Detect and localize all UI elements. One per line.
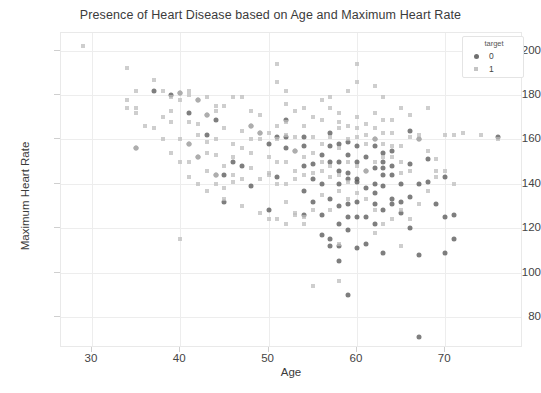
data-point-target-0 xyxy=(346,201,351,206)
data-point-target-1 xyxy=(434,157,438,161)
data-point-target-1 xyxy=(258,131,262,135)
data-point-target-0 xyxy=(346,215,351,220)
data-point-target-0 xyxy=(328,237,333,242)
gridline-horizontal xyxy=(61,273,521,274)
data-point-target-0 xyxy=(452,237,457,242)
data-point-target-0 xyxy=(337,221,342,226)
data-point-target-0 xyxy=(319,153,324,158)
data-point-target-0 xyxy=(434,201,439,206)
data-point-target-1 xyxy=(302,124,306,128)
data-point-target-1 xyxy=(355,126,359,130)
data-point-target-1 xyxy=(381,142,385,146)
data-point-target-1 xyxy=(364,122,368,126)
data-point-target-1 xyxy=(302,173,306,177)
data-point-target-0 xyxy=(363,155,368,160)
data-point-target-1 xyxy=(479,133,483,137)
data-point-target-0 xyxy=(284,146,289,151)
data-point-target-1 xyxy=(187,175,191,179)
data-point-target-1 xyxy=(355,135,359,139)
legend[interactable]: target 01 xyxy=(462,36,524,78)
data-point-target-1 xyxy=(249,151,253,155)
data-point-target-1 xyxy=(381,222,385,226)
data-point-target-1 xyxy=(222,186,226,190)
data-point-target-1 xyxy=(196,182,200,186)
data-point-target-1 xyxy=(293,149,297,153)
data-point-target-0 xyxy=(346,228,351,233)
x-tick-label: 50 xyxy=(248,352,288,364)
data-point-target-0 xyxy=(310,199,315,204)
data-point-target-1 xyxy=(311,151,315,155)
data-point-target-1 xyxy=(337,189,341,193)
data-point-target-1 xyxy=(373,231,377,235)
data-point-target-1 xyxy=(417,133,421,137)
data-point-target-1 xyxy=(275,217,279,221)
data-point-target-1 xyxy=(399,244,403,248)
data-point-target-0 xyxy=(425,157,430,162)
data-point-target-0 xyxy=(390,172,395,177)
data-point-target-1 xyxy=(161,115,165,119)
data-point-target-0 xyxy=(187,110,192,115)
data-point-target-0 xyxy=(346,170,351,175)
data-point-target-1 xyxy=(320,98,324,102)
data-point-target-1 xyxy=(293,177,297,181)
gridline-vertical xyxy=(92,33,93,346)
data-point-target-1 xyxy=(346,160,350,164)
data-point-target-1 xyxy=(408,169,412,173)
data-point-target-0 xyxy=(390,148,395,153)
data-point-target-1 xyxy=(373,137,377,141)
data-point-target-0 xyxy=(443,250,448,255)
data-point-target-0 xyxy=(328,144,333,149)
data-point-target-1 xyxy=(284,200,288,204)
data-point-target-1 xyxy=(328,175,332,179)
data-point-target-1 xyxy=(311,171,315,175)
data-point-target-1 xyxy=(178,137,182,141)
data-point-target-1 xyxy=(240,146,244,150)
data-point-target-1 xyxy=(311,115,315,119)
gridline-vertical xyxy=(269,33,270,346)
data-point-target-0 xyxy=(452,212,457,217)
data-point-target-1 xyxy=(390,217,394,221)
data-point-target-1 xyxy=(293,109,297,113)
data-point-target-0 xyxy=(213,117,218,122)
legend-item-1[interactable]: 1 xyxy=(463,63,525,76)
data-point-target-1 xyxy=(390,118,394,122)
data-point-target-1 xyxy=(408,217,412,221)
data-point-target-1 xyxy=(373,160,377,164)
gridline-horizontal xyxy=(61,95,521,96)
data-point-target-1 xyxy=(214,104,218,108)
data-point-target-1 xyxy=(320,169,324,173)
data-point-target-1 xyxy=(293,169,297,173)
legend-title: target xyxy=(463,39,525,48)
data-point-target-1 xyxy=(408,135,412,139)
data-point-target-1 xyxy=(337,279,341,283)
data-point-target-1 xyxy=(196,122,200,126)
data-point-target-0 xyxy=(301,164,306,169)
data-point-target-0 xyxy=(399,181,404,186)
data-point-target-1 xyxy=(355,80,359,84)
data-point-target-1 xyxy=(337,146,341,150)
data-point-target-0 xyxy=(222,172,227,177)
data-point-target-0 xyxy=(337,204,342,209)
data-point-target-0 xyxy=(310,161,315,166)
data-point-target-1 xyxy=(426,189,430,193)
data-point-target-1 xyxy=(205,151,209,155)
data-point-target-0 xyxy=(416,181,421,186)
data-point-target-1 xyxy=(169,120,173,124)
gridline-horizontal xyxy=(61,317,521,318)
data-point-target-0 xyxy=(301,188,306,193)
data-point-target-0 xyxy=(354,199,359,204)
data-point-target-1 xyxy=(275,80,279,84)
data-point-target-1 xyxy=(267,217,271,221)
data-point-target-1 xyxy=(275,160,279,164)
data-point-target-1 xyxy=(346,137,350,141)
data-point-target-1 xyxy=(258,137,262,141)
data-point-target-1 xyxy=(187,142,191,146)
data-point-target-1 xyxy=(240,129,244,133)
data-point-target-0 xyxy=(337,259,342,264)
data-point-target-0 xyxy=(204,133,209,138)
data-point-target-0 xyxy=(399,199,404,204)
legend-item-0[interactable]: 0 xyxy=(463,50,525,63)
data-point-target-0 xyxy=(354,246,359,251)
data-point-target-1 xyxy=(178,237,182,241)
data-point-target-1 xyxy=(381,95,385,99)
